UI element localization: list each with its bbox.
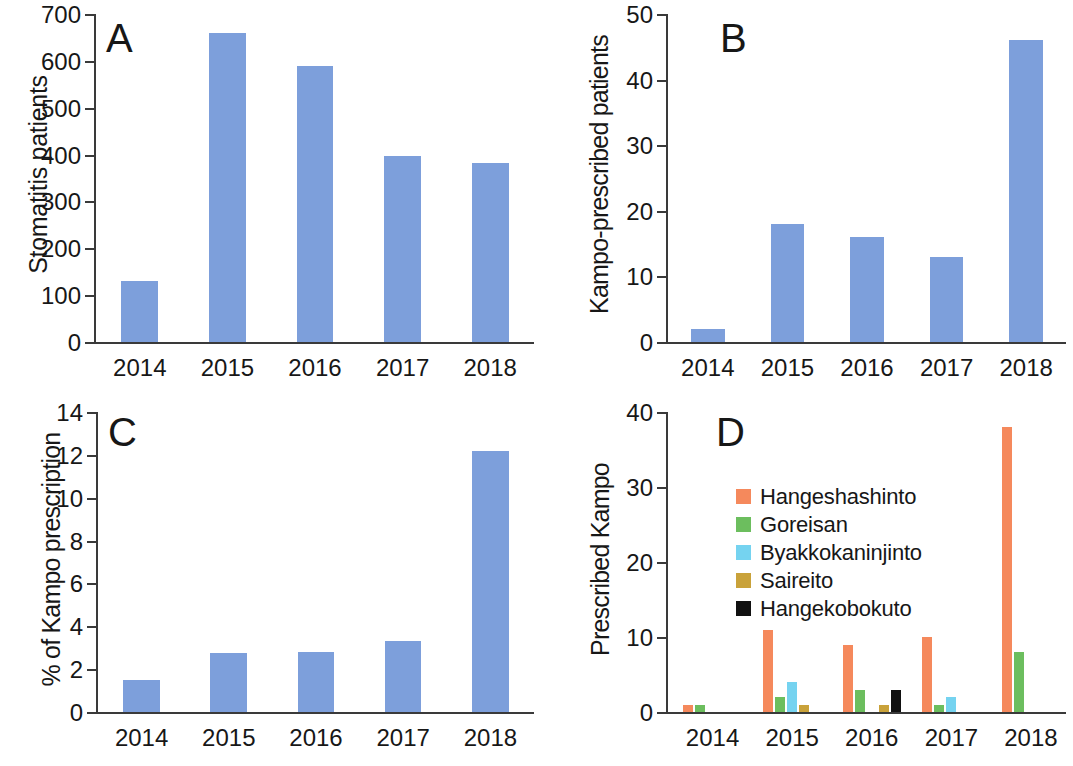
panel-c-y-tick-label: 10	[56, 485, 83, 513]
panel-c-y-tick	[87, 498, 96, 500]
bar-2016-hangekobokuto	[891, 690, 901, 713]
bar-2015-saireito	[799, 705, 809, 713]
panel-b-x-label-2016: 2016	[840, 354, 893, 382]
bar-2018-goreisan	[1014, 652, 1024, 712]
panel-c-y-tick-label: 0	[70, 699, 83, 727]
panel-d-bars	[668, 412, 1066, 712]
panel-a-y-tick	[85, 342, 94, 344]
figure-panel-grid: Stomatitis patients A 010020030040050060…	[0, 0, 1073, 766]
panel-d-y-tick-label: 10	[626, 624, 653, 652]
panel-c-x-label-2018: 2018	[464, 724, 517, 752]
panel-a-x-label-2016: 2016	[288, 354, 341, 382]
panel-a-x-label-2015: 2015	[201, 354, 254, 382]
panel-b-y-tick	[657, 276, 666, 278]
panel-d-x-label-2018: 2018	[1004, 724, 1057, 752]
panel-c-x-label-2016: 2016	[289, 724, 342, 752]
panel-a-y-tick-label: 100	[41, 282, 81, 310]
panel-a-y-tick-label: 600	[41, 48, 81, 76]
panel-a-x-label-2018: 2018	[463, 354, 516, 382]
bar-2016	[298, 652, 335, 712]
panel-a-y-tick	[85, 248, 94, 250]
panel-c-y-tick	[87, 412, 96, 414]
bar-2017-goreisan	[934, 705, 944, 713]
panel-a-y-tick	[85, 201, 94, 203]
panel-b-y-tick-label: 40	[626, 67, 653, 95]
panel-d-x-label-2016: 2016	[845, 724, 898, 752]
bar-2016-hangeshashinto	[843, 645, 853, 713]
panel-a-y-tick-label: 700	[41, 1, 81, 29]
panel-d-y-tick	[657, 562, 666, 564]
panel-c: % of Kampo prescription C 02468101214201…	[0, 390, 540, 766]
bar-2016	[297, 66, 334, 342]
panel-a-y-tick-label: 500	[41, 95, 81, 123]
panel-b-y-tick-label: 0	[640, 329, 653, 357]
panel-b: Kampo-prescribed patients B 010203040502…	[540, 0, 1073, 390]
panel-d-y-tick	[657, 412, 666, 414]
panel-a-y-tick-label: 300	[41, 188, 81, 216]
panel-b-y-tick	[657, 211, 666, 213]
panel-c-x-label-2014: 2014	[115, 724, 168, 752]
panel-b-y-tick-label: 20	[626, 198, 653, 226]
panel-c-y-tick-label: 12	[56, 442, 83, 470]
panel-b-y-tick	[657, 80, 666, 82]
panel-b-x-label-2018: 2018	[999, 354, 1052, 382]
panel-c-x-label-2015: 2015	[202, 724, 255, 752]
panel-d-y-tick-label: 30	[626, 474, 653, 502]
panel-d-y-tick-label: 40	[626, 399, 653, 427]
panel-a-x-label-2014: 2014	[113, 354, 166, 382]
panel-b-y-tick	[657, 145, 666, 147]
panel-a-bars	[96, 14, 534, 342]
panel-c-y-tick	[87, 541, 96, 543]
panel-a-plot-area: 0100200300400500600700201420152016201720…	[94, 14, 534, 344]
panel-d-y-tick-label: 20	[626, 549, 653, 577]
bar-2018	[1009, 40, 1042, 342]
panel-a-y-tick-label: 400	[41, 142, 81, 170]
panel-d-x-label-2015: 2015	[765, 724, 818, 752]
panel-c-y-tick-label: 2	[70, 656, 83, 684]
panel-b-y-tick	[657, 14, 666, 16]
panel-c-y-tick	[87, 626, 96, 628]
panel-c-y-tick	[87, 455, 96, 457]
bar-2014	[691, 329, 724, 342]
panel-a-y-tick	[85, 155, 94, 157]
bar-2018	[472, 163, 509, 342]
panel-b-x-label-2015: 2015	[761, 354, 814, 382]
bar-2017	[385, 641, 422, 712]
panel-d-y-axis-label: Prescribed Kampo	[586, 440, 615, 680]
bar-2018-hangeshashinto	[1002, 427, 1012, 712]
panel-c-y-tick-label: 6	[70, 570, 83, 598]
panel-b-x-label-2017: 2017	[920, 354, 973, 382]
panel-d-y-tick-label: 0	[640, 699, 653, 727]
panel-b-y-tick-label: 50	[626, 1, 653, 29]
panel-b-x-label-2014: 2014	[681, 354, 734, 382]
bar-2015	[771, 224, 804, 342]
panel-a-y-tick	[85, 14, 94, 16]
panel-a-y-tick-label: 0	[68, 329, 81, 357]
panel-c-y-tick-label: 4	[70, 613, 83, 641]
panel-a-x-axis	[94, 342, 534, 344]
panel-c-bars	[98, 412, 534, 712]
bar-2016	[850, 237, 883, 342]
bar-2015	[210, 653, 247, 712]
bar-2015-hangeshashinto	[763, 630, 773, 713]
bar-2014	[123, 680, 160, 712]
bar-2014-goreisan	[695, 705, 705, 713]
panel-d-y-tick	[657, 487, 666, 489]
panel-c-y-tick-label: 14	[56, 399, 83, 427]
panel-d: Prescribed Kampo D HangeshashintoGoreisa…	[540, 390, 1073, 766]
bar-2018	[472, 451, 509, 712]
panel-a-y-tick	[85, 295, 94, 297]
bar-2017	[930, 257, 963, 342]
panel-a-y-tick-label: 200	[41, 235, 81, 263]
panel-c-x-axis	[96, 712, 534, 714]
panel-c-y-tick	[87, 669, 96, 671]
panel-c-y-tick-label: 8	[70, 528, 83, 556]
panel-b-y-axis-label: Kampo-prescribed patients	[585, 10, 614, 340]
panel-b-y-tick-label: 30	[626, 132, 653, 160]
panel-b-y-tick	[657, 342, 666, 344]
panel-a-x-label-2017: 2017	[376, 354, 429, 382]
panel-c-plot-area: 0246810121420142015201620172018	[96, 412, 534, 714]
bar-2016-saireito	[879, 705, 889, 713]
panel-a-y-tick	[85, 61, 94, 63]
panel-b-plot-area: 0102030405020142015201620172018	[666, 14, 1066, 344]
